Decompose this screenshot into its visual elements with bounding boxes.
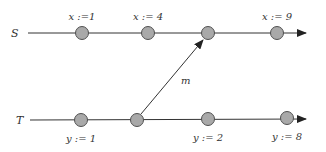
event-t-4 xyxy=(281,112,294,125)
message-label: m xyxy=(181,75,190,86)
event-s-4 xyxy=(271,27,284,40)
event-s-1-label: x :=1 xyxy=(69,11,96,22)
event-t-2-send xyxy=(131,114,144,127)
space-time-diagram: S x :=1 x := 4 x := 9 T y := 1 y := 2 y … xyxy=(0,0,326,152)
event-t-1 xyxy=(75,114,88,127)
event-s-4-label: x := 9 xyxy=(262,11,293,22)
event-t-3-label: y := 2 xyxy=(192,132,223,143)
process-label-t: T xyxy=(16,114,25,127)
event-t-4-label: y := 8 xyxy=(271,131,302,142)
event-s-3-receive xyxy=(202,27,215,40)
message-arrow xyxy=(141,40,203,114)
message-m: m xyxy=(141,40,203,114)
process-t: T y := 1 y := 2 y := 8 xyxy=(16,112,306,145)
event-t-3 xyxy=(202,113,215,126)
timeline-t xyxy=(30,119,306,120)
event-s-2 xyxy=(142,27,155,40)
event-t-1-label: y := 1 xyxy=(65,133,96,144)
process-s: S x :=1 x := 4 x := 9 xyxy=(11,11,306,40)
process-label-s: S xyxy=(11,27,19,40)
event-s-1 xyxy=(76,27,89,40)
event-s-2-label: x := 4 xyxy=(133,11,163,22)
